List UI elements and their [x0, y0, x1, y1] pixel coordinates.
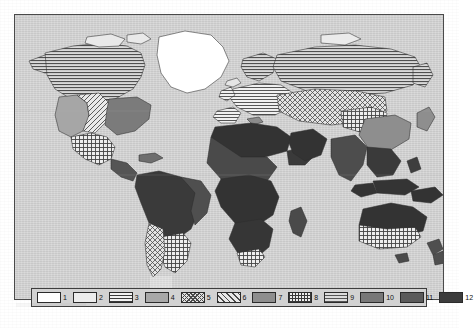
region-tasmania [395, 253, 409, 263]
legend-label-7: 7 [278, 294, 282, 301]
legend-label-10: 10 [386, 294, 394, 301]
region-greenland [157, 31, 229, 93]
region-india [331, 135, 367, 181]
legend-swatch-6 [217, 292, 241, 303]
legend-swatch-9 [324, 292, 348, 303]
legend-swatch-2 [73, 292, 97, 303]
legend-swatch-10 [360, 292, 384, 303]
legend-label-5: 5 [207, 294, 211, 301]
region-central-america [111, 159, 137, 181]
region-caribbean [139, 153, 163, 163]
region-japan [417, 107, 435, 131]
legend-item-4[interactable]: 4 [140, 289, 176, 306]
legend-item-9[interactable]: 9 [319, 289, 355, 306]
region-philippines [407, 157, 421, 173]
legend-label-3: 3 [135, 294, 139, 301]
legend-item-5[interactable]: 5 [176, 289, 212, 306]
legend-label-8: 8 [314, 294, 318, 301]
legend-swatch-5 [181, 292, 205, 303]
region-china-east [359, 115, 411, 151]
legend-item-2[interactable]: 2 [68, 289, 104, 306]
legend-item-6[interactable]: 6 [212, 289, 248, 306]
legend-label-11: 11 [426, 294, 433, 301]
region-iceland [225, 78, 241, 87]
legend-swatch-7 [252, 292, 276, 303]
region-indonesia-2 [351, 183, 377, 197]
region-mexico-southwest [71, 133, 115, 165]
legend-swatch-3 [109, 292, 133, 303]
legend-item-10[interactable]: 10 [355, 289, 395, 306]
legend-item-1[interactable]: 1 [32, 289, 68, 306]
legend-swatch-8 [288, 292, 312, 303]
region-arctic-russia-islands [321, 33, 361, 45]
legend-item-3[interactable]: 3 [104, 289, 140, 306]
legend-swatch-12 [439, 292, 463, 303]
region-new-guinea [411, 187, 443, 203]
map-panel [14, 14, 444, 300]
region-scandinavia [241, 53, 277, 81]
legend-label-2: 2 [99, 294, 103, 301]
legend-label-6: 6 [243, 294, 247, 301]
region-iberia [213, 107, 241, 123]
region-kamchatka [413, 63, 433, 87]
region-eastern-usa [105, 97, 151, 135]
legend-label-12: 12 [465, 294, 473, 301]
region-madagascar [289, 207, 307, 237]
legend-swatch-1 [37, 292, 61, 303]
region-australia-south [359, 225, 421, 249]
legend-label-1: 1 [63, 294, 67, 301]
legend-swatch-4 [145, 292, 169, 303]
region-siberia [273, 45, 423, 95]
map-legend: 1 2 3 4 5 6 7 8 [31, 288, 427, 307]
legend-item-8[interactable]: 8 [283, 289, 319, 306]
region-southeast-asia [367, 147, 401, 177]
region-arctic-islands-2 [127, 33, 151, 44]
legend-label-4: 4 [171, 294, 175, 301]
legend-swatch-11 [400, 292, 424, 303]
legend-label-9: 9 [350, 294, 354, 301]
region-patagonia [145, 223, 165, 277]
world-map [15, 15, 444, 300]
legend-item-12[interactable]: 12 [434, 289, 474, 306]
region-congo-basin [215, 175, 279, 227]
legend-item-11[interactable]: 11 [395, 289, 434, 306]
legend-item-7[interactable]: 7 [247, 289, 283, 306]
